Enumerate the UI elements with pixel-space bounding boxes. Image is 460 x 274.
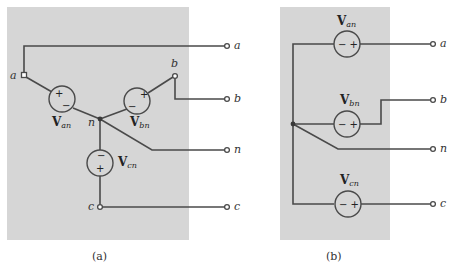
svg-text:c: c (440, 197, 446, 210)
svg-text:n: n (440, 142, 447, 155)
svg-text:+: + (96, 163, 104, 174)
svg-text:+: + (140, 89, 148, 100)
caption-b: (b) (326, 250, 342, 263)
svg-text:b: b (234, 92, 241, 105)
terminal-c-icon (225, 205, 230, 210)
source-van-b: − + Van (334, 14, 360, 57)
svg-text:− +: − + (338, 39, 358, 50)
svg-text:b: b (171, 57, 178, 70)
svg-text:a: a (440, 37, 447, 50)
terminal-n-icon (225, 148, 230, 153)
panel-b: − + Van − + Vbn − + Vcn a b n c (b) (280, 7, 447, 263)
caption-a: (a) (92, 250, 107, 263)
svg-text:b: b (440, 93, 447, 106)
terminal-a-icon (431, 42, 436, 47)
terminal-b-icon (431, 98, 436, 103)
svg-text:−: − (97, 150, 105, 161)
terminal-a-icon (225, 44, 230, 49)
svg-text:−: − (62, 100, 70, 111)
terminal-c-icon (431, 202, 436, 207)
svg-text:a: a (234, 39, 241, 52)
svg-text:+: + (55, 88, 63, 99)
node-b-icon (173, 74, 178, 79)
node-c-icon (98, 205, 103, 210)
source-van-a: + − Van (49, 86, 75, 130)
neutral-node-icon (291, 122, 296, 127)
svg-text:n: n (234, 143, 241, 156)
node-n-icon (98, 117, 103, 122)
svg-text:−: − (128, 101, 136, 112)
svg-text:a: a (10, 69, 17, 82)
terminal-b-icon (225, 97, 230, 102)
svg-text:c: c (234, 200, 240, 213)
svg-text:n: n (88, 116, 95, 129)
panel-a: + − Van + − Vbn − + Vcn a b n c a b n (7, 7, 241, 263)
svg-text:− +: − + (338, 119, 358, 130)
svg-text:− +: − + (339, 199, 359, 210)
svg-text:c: c (88, 200, 94, 213)
terminal-n-icon (431, 147, 436, 152)
node-a-icon (22, 73, 27, 78)
circuit-figure: + − Van + − Vbn − + Vcn a b n c a b n (0, 0, 460, 274)
